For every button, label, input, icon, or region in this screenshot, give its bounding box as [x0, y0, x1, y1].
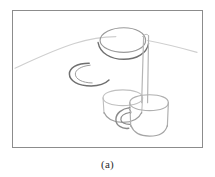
rear-cup-base-arc	[104, 113, 142, 123]
front-cup-left-wall	[130, 103, 131, 127]
top-cylinder-lower-arc	[98, 43, 148, 60]
figure-caption: (a)	[0, 158, 215, 171]
front-cup-rim	[130, 95, 169, 111]
top-cylinder-rim-ellipse	[100, 28, 146, 53]
figure-frame	[12, 10, 203, 148]
sketch-drawing	[13, 11, 202, 147]
rear-cup-rim	[103, 90, 143, 106]
horizon-line-left	[15, 37, 116, 69]
figure-container: (a)	[0, 0, 215, 177]
front-cup-handle-outer	[116, 108, 130, 129]
horizon-line-right	[148, 41, 197, 53]
mug-handle-c-inner	[75, 65, 92, 83]
front-cup-base-arc	[131, 125, 168, 136]
